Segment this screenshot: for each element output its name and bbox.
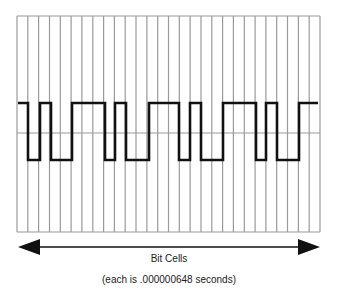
- axis-sublabel: (each is .000000648 seconds): [0, 274, 338, 285]
- bit-cell-grid: [17, 16, 320, 232]
- axis-label: Bit Cells: [0, 253, 338, 264]
